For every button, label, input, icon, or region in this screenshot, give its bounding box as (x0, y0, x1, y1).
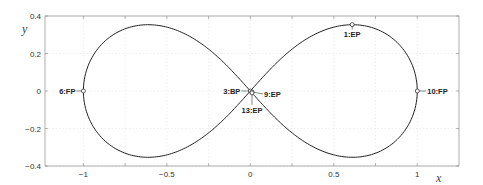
y-tick-label: 0 (37, 87, 42, 96)
x-axis-label: x (435, 171, 442, 185)
chart: −1−0.500.51−0.4−0.200.20.4 1:EP3:BP6:FP9… (0, 0, 483, 185)
point-label: 10:FP (427, 87, 447, 96)
point-label: 6:FP (59, 87, 75, 96)
axis-ticks: −1−0.500.51−0.4−0.200.20.4 (25, 12, 459, 179)
x-tick-label: 1 (415, 170, 420, 179)
x-tick-label: 0.5 (328, 170, 340, 179)
point-label: 13:EP (242, 106, 263, 115)
point-marker (81, 89, 85, 93)
x-tick-label: −1 (79, 170, 89, 179)
y-axis-label: y (21, 22, 28, 36)
y-tick-label: 0.4 (30, 12, 42, 21)
y-tick-label: −0.4 (25, 162, 41, 171)
point-label: 1:EP (344, 30, 361, 39)
y-tick-label: 0.2 (30, 50, 42, 59)
y-tick-label: −0.2 (25, 125, 41, 134)
point-marker (415, 89, 419, 93)
x-tick-label: 0 (248, 170, 253, 179)
point-marker (250, 91, 254, 95)
x-tick-label: −0.5 (159, 170, 175, 179)
point-label: 3:BP (223, 87, 240, 96)
point-marker (350, 23, 354, 27)
point-label: 9:EP (264, 90, 281, 99)
